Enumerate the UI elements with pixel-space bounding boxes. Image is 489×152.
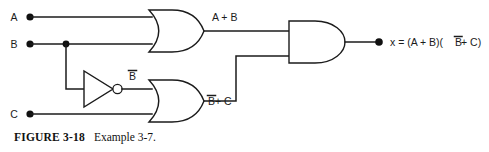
and-gate-body [289,21,345,63]
not-gate-bubble-icon [113,84,122,93]
input-a-label: A [10,11,17,23]
output-terminal-dot [375,38,383,46]
or-gate-2-output-label-b: B [208,95,215,107]
not-gate-output-label: B [129,70,136,82]
or-gate-2-body [149,80,204,122]
or-gate-1 [149,10,204,52]
input-b-label: B [10,38,17,50]
input-c-label: C [10,108,18,120]
not-gate [84,71,122,107]
or-gate-2-output-label-suffix: + C [215,95,232,107]
figure-caption: FIGURE 3-18Example 3-7. [14,131,156,143]
or-gate-1-output-label: A + B [212,11,237,23]
not-gate-triangle [84,71,113,107]
output-expression-lead: x = (A + B)( [390,36,444,48]
figure-caption-number: FIGURE 3-18 [14,131,85,143]
figure-caption-text: Example 3-7. [94,131,156,143]
or-gate-1-body [149,10,204,52]
figure-3-18: A B C A + B B B + C x = (A + B)( B + C) … [0,0,489,152]
and-gate [289,21,345,63]
or-gate-2 [149,80,204,122]
logic-circuit-diagram: A B C A + B B B + C x = (A + B)( B + C) [0,0,489,152]
output-expression-tail: + C) [461,36,481,48]
wire-b-branch-to-inverter [66,44,84,89]
